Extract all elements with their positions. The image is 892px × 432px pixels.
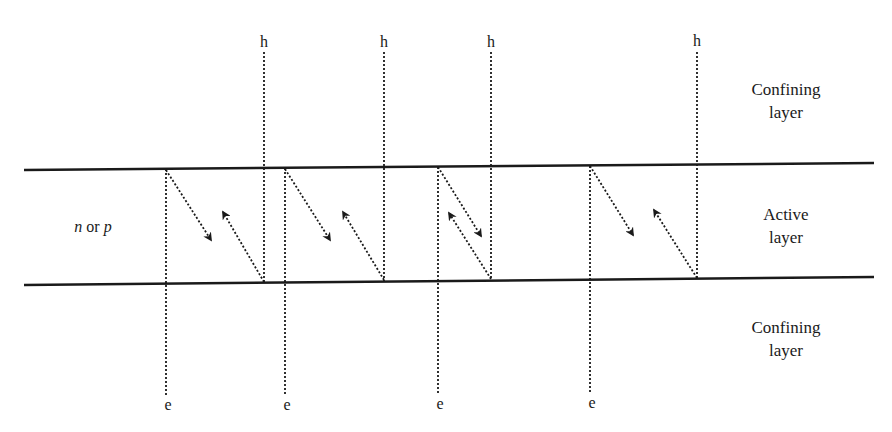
doping-p: p [103, 218, 112, 236]
active-layer-label-line2: layer [769, 228, 803, 247]
bottom-confining-label-line1: Confining [752, 318, 821, 337]
down-arrow [285, 169, 330, 240]
hole-label: h [487, 33, 495, 50]
active-layer-label-line1: Active [763, 205, 808, 224]
diagram-canvas: h h h h e e e e n or p Confining layer A… [0, 0, 892, 432]
up-arrow [449, 213, 491, 279]
doping-type-label: n or p [74, 218, 111, 236]
hole-label: h [380, 33, 388, 50]
transition-group-1 [166, 52, 264, 395]
hole-label: h [260, 33, 268, 50]
electron-label: e [283, 396, 290, 413]
bottom-confining-label-line2: layer [769, 341, 803, 360]
hole-label: h [693, 32, 701, 49]
top-confining-label-line1: Confining [752, 80, 821, 99]
electron-label: e [164, 396, 171, 413]
up-arrow [654, 210, 697, 278]
down-arrow [590, 166, 633, 235]
up-arrow [223, 212, 264, 282]
down-arrow [438, 167, 481, 236]
doping-n: n [74, 218, 82, 235]
top-heterojunction-line [24, 163, 874, 170]
top-confining-label-line2: layer [769, 103, 803, 122]
down-arrow [166, 170, 211, 240]
diagram-svg: h h h h e e e e n or p Confining layer A… [0, 0, 892, 432]
electron-label: e [588, 394, 595, 411]
bottom-heterojunction-line [24, 277, 874, 285]
up-arrow [343, 212, 384, 280]
doping-or: or [82, 218, 103, 235]
transition-group-3 [438, 52, 491, 395]
transition-group-4 [590, 52, 697, 393]
transition-group-2 [285, 52, 384, 395]
electron-label: e [436, 395, 443, 412]
